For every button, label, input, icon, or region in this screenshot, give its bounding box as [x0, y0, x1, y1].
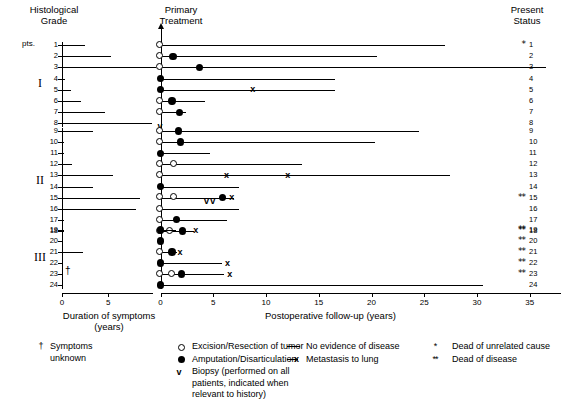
- metastasis-marker-21-0: x: [178, 248, 183, 257]
- duration-bar-6: [62, 101, 81, 102]
- treatment-amputation-marker-7-1: [176, 109, 183, 116]
- status-row-number-20: 20: [529, 237, 543, 245]
- duration-x-tick-0: [62, 293, 63, 297]
- treatment-excision-marker-23-1: [168, 270, 175, 277]
- duration-bar-17: [62, 220, 64, 221]
- metastasis-marker-13-0: x: [224, 171, 229, 180]
- legend-no-disease-line-icon: [287, 346, 300, 347]
- status-row-number-23: 23: [529, 270, 543, 278]
- followup-x-tick-25: [424, 293, 425, 297]
- treatment-amputation-marker-19-0: [157, 226, 164, 233]
- status-mark-23: **: [503, 270, 525, 278]
- row-number-9: 9: [44, 127, 58, 135]
- duration-bar-13: [62, 175, 113, 176]
- status-row-number-5: 5: [529, 86, 543, 94]
- histological-grade-header: Histological Grade: [6, 4, 102, 26]
- duration-bar-16: [62, 209, 136, 210]
- status-mark-21: **: [503, 248, 525, 256]
- treatment-excision-marker-9-0: [156, 127, 163, 134]
- followup-x-ticklabel-25: 25: [414, 299, 434, 307]
- followup-x-axis: [161, 293, 562, 294]
- treatment-amputation-marker-9-1: [175, 127, 182, 134]
- row-number-14: 14: [44, 183, 58, 191]
- duration-axis-II: [62, 128, 63, 235]
- legend-metastasis-x-glyph: x: [294, 354, 299, 365]
- duration-x-ticklabel-0: 0: [52, 299, 72, 307]
- row-number-19: 19: [44, 226, 58, 234]
- status-mark-19: **: [503, 226, 525, 234]
- followup-x-tick-5: [213, 293, 214, 297]
- treatment-excision-marker-1-0: [156, 41, 163, 48]
- followup-x-tick-35: [530, 293, 531, 297]
- row-number-11: 11: [44, 149, 58, 157]
- duration-bar-4: [62, 79, 65, 80]
- duration-bar-23: [62, 274, 63, 275]
- duration-bar-11: [62, 153, 64, 154]
- legend-dagger-icon: †: [34, 341, 48, 353]
- duration-axis-title: Duration of symptoms (years): [34, 310, 184, 332]
- legend-amputation-icon: [178, 356, 185, 363]
- treatment-amputation-marker-24-0: [157, 281, 164, 288]
- duration-bar-14: [62, 187, 93, 188]
- row-number-6: 6: [44, 97, 58, 105]
- followup-line-6: [161, 101, 205, 102]
- treatment-excision-marker-16-0: [156, 205, 163, 212]
- status-mark-1: *: [503, 41, 525, 49]
- followup-x-tick-10: [266, 293, 267, 297]
- duration-bar-18: [62, 231, 64, 232]
- row-number-24: 24: [44, 281, 58, 289]
- followup-x-ticklabel-5: 5: [203, 299, 223, 307]
- duration-bar-12: [62, 164, 72, 165]
- row-number-21: 21: [44, 248, 58, 256]
- followup-line-12: [161, 164, 302, 165]
- status-row-number-12: 12: [529, 160, 543, 168]
- treatment-amputation-marker-3-1: [196, 64, 203, 71]
- treatment-excision-marker-15-0: [156, 193, 163, 200]
- legend-status-icon-1: **: [428, 354, 442, 366]
- followup-line-13: [161, 175, 450, 176]
- duration-bar-2: [62, 56, 111, 57]
- status-mark-20: **: [503, 237, 525, 245]
- status-row-number-9: 9: [529, 127, 543, 135]
- followup-x-tick-0: [161, 293, 162, 297]
- treatment-amputation-marker-11-0: [157, 150, 164, 157]
- treatment-excision-marker-3-0: [156, 63, 163, 70]
- followup-x-ticklabel-10: 10: [256, 299, 276, 307]
- duration-bar-22: [62, 263, 63, 264]
- treatment-amputation-marker-14-0: [157, 183, 164, 190]
- status-row-number-3: 3: [529, 63, 543, 71]
- treatment-excision-marker-7-0: [156, 108, 163, 115]
- status-row-number-19: 19: [529, 226, 543, 234]
- treatment-excision-marker-23-0: [156, 270, 163, 277]
- status-row-number-2: 2: [529, 52, 543, 60]
- treatment-excision-marker-6-0: [156, 97, 163, 104]
- legend-outcome-text-1: Metastasis to lung: [306, 354, 379, 366]
- metastasis-marker-23-0: x: [227, 270, 232, 279]
- followup-line-5: [161, 90, 335, 91]
- followup-line-16: [161, 209, 239, 210]
- status-row-number-17: 17: [529, 216, 543, 224]
- followup-line-24: [161, 285, 484, 286]
- primary-treatment-header: Primary Treatment: [133, 4, 229, 26]
- treatment-excision-marker-17-0: [156, 216, 163, 223]
- legend-status-text-0: Dead of unrelated cause: [452, 341, 550, 353]
- followup-line-22: [161, 263, 222, 264]
- treatment-amputation-marker-22-0: [157, 259, 164, 266]
- followup-x-ticklabel-20: 20: [362, 299, 382, 307]
- row-number-15: 15: [44, 194, 58, 202]
- metastasis-marker-22-0: x: [225, 259, 230, 268]
- treatment-excision-marker-12-1: [170, 160, 177, 167]
- followup-axis-title: Postoperative follow-up (years): [201, 310, 461, 321]
- row-number-16: 16: [44, 205, 58, 213]
- status-row-number-15: 15: [529, 194, 543, 202]
- status-row-number-1: 1: [529, 41, 543, 49]
- treatment-amputation-marker-21-1: [168, 248, 175, 255]
- status-mark-22: **: [503, 259, 525, 267]
- treatment-amputation-marker-18-2: [179, 227, 186, 234]
- status-row-number-11: 11: [529, 149, 543, 157]
- treatment-excision-marker-10-0: [156, 138, 163, 145]
- row-number-22: 22: [44, 259, 58, 267]
- followup-x-ticklabel-35: 35: [520, 299, 540, 307]
- row-number-2: 2: [44, 52, 58, 60]
- duration-bar-5: [62, 90, 71, 91]
